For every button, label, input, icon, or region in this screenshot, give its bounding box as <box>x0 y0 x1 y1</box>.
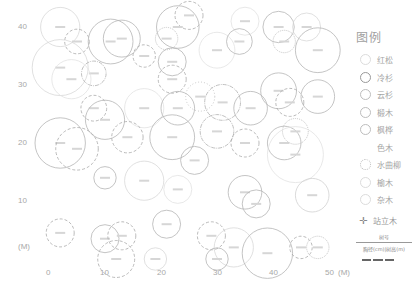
tree-label <box>296 246 306 248</box>
tree-label <box>285 101 295 103</box>
tree-label <box>190 159 200 161</box>
circle-icon <box>360 72 371 83</box>
tree-label <box>173 26 183 28</box>
tree-label <box>89 107 99 109</box>
tree-label <box>106 41 116 43</box>
circle-icon <box>360 107 371 118</box>
tree-label <box>162 223 172 225</box>
circle-icon <box>360 194 371 205</box>
tree-label <box>212 258 222 260</box>
tree-label <box>66 78 76 80</box>
tree-label <box>212 49 222 51</box>
tree-label <box>274 26 284 28</box>
legend-title: 图例 <box>356 28 413 45</box>
tree-label <box>100 177 110 179</box>
legend-item: 红松 <box>356 51 413 69</box>
tree-label <box>240 20 250 22</box>
circle-icon <box>360 124 371 135</box>
tree-label <box>313 49 323 51</box>
tree-label <box>117 235 127 237</box>
label-key-divider <box>356 242 412 243</box>
tree-label <box>290 130 300 132</box>
tree-label <box>234 41 244 43</box>
legend-item: 椴木 <box>356 104 413 122</box>
legend-item-label: 冷杉 <box>377 72 393 83</box>
y-tick-label: 40 <box>18 22 27 31</box>
tree-label <box>246 107 256 109</box>
circle-icon <box>360 177 371 188</box>
tree-label <box>55 232 65 234</box>
tree-label <box>251 203 261 205</box>
legend-item-label: 杂木 <box>377 194 393 205</box>
tree-label <box>139 180 149 182</box>
tree-label <box>117 38 127 40</box>
tree-label <box>212 130 222 132</box>
scale-bar <box>362 258 396 261</box>
label-key: 树号 胸径(cm)|树高(m) <box>356 233 412 252</box>
tree-label <box>167 61 177 63</box>
cross-icon: ✛ <box>359 215 367 226</box>
tree-label <box>139 107 149 109</box>
circle-icon <box>360 142 371 153</box>
tree-label <box>167 78 177 80</box>
legend-item-label: 云杉 <box>377 89 393 100</box>
x-tick-label: 0 <box>46 268 50 277</box>
tree-label <box>55 26 65 28</box>
circle-icon <box>360 54 371 65</box>
legend-item: 冷杉 <box>356 69 413 87</box>
tree-label <box>218 101 228 103</box>
tree-label <box>206 235 216 237</box>
legend-items: 红松冷杉云杉椴木枫桦色木水曲柳榆木杂木 <box>356 51 413 209</box>
y-tick-label: 10 <box>18 196 27 205</box>
tree-label <box>313 246 323 248</box>
legend-item: 榆木 <box>356 174 413 192</box>
tree-label <box>72 148 82 150</box>
tree-label <box>313 96 323 98</box>
tree-label <box>173 107 183 109</box>
tree-label <box>279 142 289 144</box>
legend-item-label: 枫桦 <box>377 124 393 135</box>
legend-item: 色木 <box>356 139 413 157</box>
legend: 图例 红松冷杉云杉椴木枫桦色木水曲柳榆木杂木 ✛ 站立木 树号 胸径(cm)|树… <box>356 28 413 261</box>
circle-icon <box>360 159 371 170</box>
x-tick-label: 20 <box>157 268 166 277</box>
tree-label <box>100 119 110 121</box>
tree-label <box>290 154 300 156</box>
tree-label <box>139 55 149 57</box>
tree-label <box>302 26 312 28</box>
tree-label <box>195 96 205 98</box>
x-tick-label: 40 <box>269 268 278 277</box>
x-tick-label: 10 <box>100 268 109 277</box>
label-key-bottom: 胸径(cm)|树高(m) <box>356 245 412 252</box>
y-tick-label: 30 <box>18 80 27 89</box>
y-tick-label: (M) <box>18 242 30 251</box>
label-key-top: 树号 <box>356 233 412 240</box>
tree-label <box>184 14 194 16</box>
legend-item-label: 榆木 <box>377 177 393 188</box>
legend-item: 水曲柳 <box>356 156 413 174</box>
tree-label <box>173 188 183 190</box>
legend-item-label: 红松 <box>377 54 393 65</box>
tree-label <box>240 142 250 144</box>
tree-label <box>229 246 239 248</box>
tree-label <box>262 252 272 254</box>
tree-label <box>150 258 160 260</box>
tree-label <box>55 67 65 69</box>
legend-item-label: 水曲柳 <box>377 159 401 170</box>
legend-item: 杂木 <box>356 191 413 209</box>
legend-item: 云杉 <box>356 86 413 104</box>
stem-map-plot <box>0 0 413 295</box>
tree-label <box>122 136 132 138</box>
circle-icon <box>360 89 371 100</box>
tree-label <box>162 38 172 40</box>
tree-label <box>111 258 121 260</box>
tree-label <box>279 41 289 43</box>
y-tick-label: 20 <box>18 138 27 147</box>
tree-label <box>72 41 82 43</box>
x-tick-label: 50 <box>325 268 334 277</box>
tree-label <box>307 194 317 196</box>
legend-item-label: 色木 <box>377 142 393 153</box>
x-tick-label: 30 <box>213 268 222 277</box>
legend-item-label: 椴木 <box>377 107 393 118</box>
legend-item: 枫桦 <box>356 121 413 139</box>
